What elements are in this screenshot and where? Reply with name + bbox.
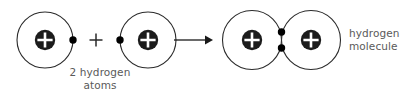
plus-operator-icon (90, 34, 103, 47)
reaction-arrow-icon (174, 35, 213, 44)
product-caption-line1: hydrogen (349, 27, 400, 40)
electron-dot (69, 36, 76, 43)
hydrogen-atom-left (17, 12, 77, 68)
reactants-caption-line1: 2 hydrogen (0, 66, 200, 79)
reactants-caption-line2: atoms (0, 79, 200, 92)
product-caption-line2: molecule (349, 40, 400, 53)
hydrogen-atom-right (116, 12, 176, 68)
reactants-caption: 2 hydrogen atoms (0, 66, 200, 91)
arrow-head (205, 35, 213, 44)
shared-electron-dot-lower (278, 44, 285, 51)
nucleus-proton-right (301, 30, 321, 50)
hydrogen-molecule-diagram: 2 hydrogen atoms hydrogen molecule (0, 0, 418, 97)
hydrogen-molecule (223, 11, 341, 70)
electron-dot (116, 36, 123, 43)
nucleus-proton-left (242, 30, 262, 50)
shared-electron-dot-upper (278, 28, 285, 35)
product-caption: hydrogen molecule (349, 27, 400, 52)
nucleus-proton (138, 30, 158, 50)
nucleus-proton (35, 30, 55, 50)
